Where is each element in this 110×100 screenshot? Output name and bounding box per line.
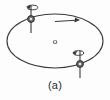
figure-caption: (a): [0, 79, 110, 92]
orbit-direction-arrow: [55, 18, 80, 23]
node-lower-right-spin-arrow: [72, 51, 83, 56]
node-lower-right: [72, 51, 83, 79]
node-upper-left: [26, 5, 37, 33]
figure-panel-a: o (a): [0, 0, 110, 100]
orbit-ellipse: [7, 14, 103, 68]
center-point-marker: [53, 39, 57, 43]
node-upper-left-spin-arrow: [26, 5, 37, 10]
